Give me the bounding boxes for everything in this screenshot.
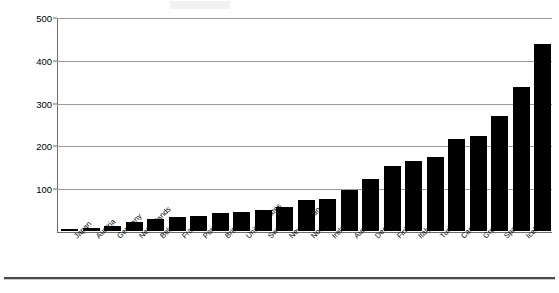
plot-area: 100200300400500 [57,18,552,232]
y-tick-mark-200 [53,146,57,147]
y-tick-label-100: 100 [36,184,52,195]
y-tick-label-200: 200 [36,141,52,152]
bar [427,157,444,231]
bar [534,44,551,231]
y-tick-mark-100 [53,189,57,190]
x-axis-line [57,232,552,233]
bar [513,87,530,231]
bar-chart-figure: Work Days lost per 1,000 Employees 10020… [0,0,559,293]
bar [448,139,465,231]
y-tick-label-500: 500 [36,13,52,24]
footer-rule-shadow [4,279,555,280]
scan-artifact [170,1,230,9]
x-axis-tick-labels: JapanAustriaGermanyNetherlandsBelgiumFra… [58,234,553,282]
y-tick-label-300: 300 [36,98,52,109]
y-tick-mark-300 [53,103,57,104]
bar [491,116,508,231]
y-tick-mark-500 [53,18,57,19]
bar-series [58,17,552,231]
y-tick-label-400: 400 [36,55,52,66]
y-tick-mark-400 [53,60,57,61]
y-axis-title: Work Days lost per 1,000 Employees [1,0,17,32]
